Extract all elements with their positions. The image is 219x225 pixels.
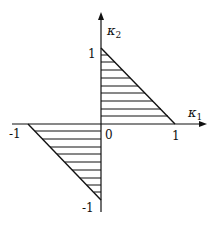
y-axis-label: κ2 [107,24,121,40]
upper-right-region [101,48,175,124]
x-axis-label: κ1 [188,106,202,122]
y-tick-positive-one: 1 [88,48,96,60]
lower-left-region [28,124,101,200]
x-tick-positive-one: 1 [172,130,180,142]
origin-label: 0 [105,129,113,141]
y-axis-arrow-icon [98,12,104,20]
y-tick-negative-one: -1 [82,202,94,214]
x-tick-negative-one: -1 [9,128,21,140]
